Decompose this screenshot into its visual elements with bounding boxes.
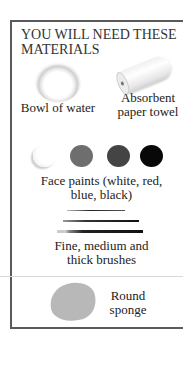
medium-brush-icon <box>63 220 139 222</box>
white-paint-icon <box>33 145 56 167</box>
bowl-label: Bowl of water <box>14 101 102 115</box>
brushes-label-line-1: Fine, medium and <box>20 239 183 253</box>
bowl-of-water-icon <box>36 64 80 102</box>
paints-label: Face paints (white, red, blue, black) <box>20 174 183 202</box>
heading-line-2: MATERIALS <box>21 42 177 57</box>
divider <box>0 276 183 277</box>
fine-brush-icon <box>67 210 125 211</box>
red-paint-icon <box>70 145 93 167</box>
brushes-label: Fine, medium and thick brushes <box>20 239 183 267</box>
paints-label-line-1: Face paints (white, red, <box>20 174 183 188</box>
sponge-label: Round sponge <box>104 289 152 317</box>
sponge-label-line-1: Round <box>104 289 152 303</box>
sponge-label-line-2: sponge <box>104 303 152 317</box>
materials-heading: YOU WILL NEED THESE MATERIALS <box>21 27 177 57</box>
heading-line-1: YOU WILL NEED THESE <box>21 27 177 42</box>
blue-paint-icon <box>107 145 130 167</box>
paints-label-line-2: blue, black) <box>20 188 183 202</box>
towel-label-line-2: paper towel <box>112 105 183 119</box>
brushes-label-line-2: thick brushes <box>20 253 183 267</box>
towel-label-line-1: Absorbent <box>112 91 183 105</box>
thick-brush-icon <box>57 230 143 233</box>
towel-label: Absorbent paper towel <box>112 91 183 119</box>
black-paint-icon <box>140 145 163 167</box>
